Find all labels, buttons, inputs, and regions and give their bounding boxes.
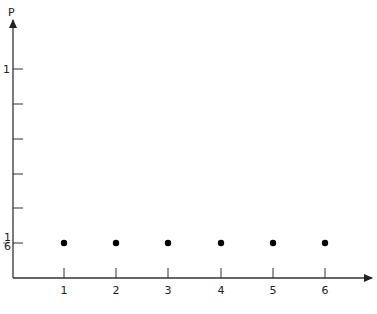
y-tick-label-1: 1 [3, 63, 10, 76]
data-point-4 [218, 240, 224, 246]
svg-text:6: 6 [4, 240, 11, 253]
data-point-3 [165, 240, 171, 246]
svg-text:5: 5 [270, 284, 277, 297]
data-points [61, 240, 328, 246]
svg-text:3: 3 [165, 284, 172, 297]
data-point-5 [270, 240, 276, 246]
data-point-2 [113, 240, 119, 246]
x-ticks [64, 268, 325, 278]
svg-text:6: 6 [322, 284, 329, 297]
chart: P 1 1 6 1 2 3 4 5 6 [0, 0, 377, 314]
y-ticks [13, 69, 23, 243]
svg-text:4: 4 [218, 284, 225, 297]
svg-text:1: 1 [61, 284, 68, 297]
y-axis-label: P [8, 6, 15, 19]
y-tick-label-one-sixth: 1 6 [3, 231, 11, 253]
x-tick-labels: 1 2 3 4 5 6 [61, 284, 329, 297]
svg-text:2: 2 [113, 284, 120, 297]
data-point-1 [61, 240, 67, 246]
data-point-6 [322, 240, 328, 246]
